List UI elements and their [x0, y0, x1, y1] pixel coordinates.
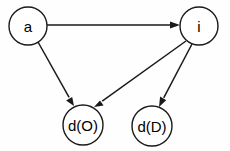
- node-group: a i d(O) d(D): [9, 7, 218, 146]
- graph-diagram: a i d(O) d(D): [0, 0, 230, 151]
- node-i-label: i: [197, 18, 200, 35]
- node-a-label: a: [24, 18, 33, 35]
- node-dO-label: d(O): [68, 117, 98, 134]
- edge-i-to-dO: [94, 41, 186, 107]
- edge-i-to-dD-line: [164, 44, 192, 98]
- edge-a-to-dO-line: [38, 42, 69, 97]
- edge-i-to-dD: [159, 44, 192, 107]
- edge-a-to-i: [47, 22, 180, 29]
- node-dD-label: d(D): [137, 118, 166, 135]
- edge-a-to-dO: [38, 42, 74, 106]
- edge-i-to-dO-arrowhead: [94, 100, 104, 107]
- edge-a-to-i-arrowhead: [170, 22, 180, 29]
- edge-i-to-dO-line: [102, 41, 186, 101]
- node-a[interactable]: a: [9, 7, 47, 45]
- node-dD[interactable]: d(D): [132, 106, 172, 146]
- edge-a-to-dO-arrowhead: [66, 97, 74, 106]
- node-i[interactable]: i: [180, 7, 218, 45]
- graph-canvas: a i d(O) d(D): [0, 0, 230, 151]
- edge-i-to-dD-arrowhead: [159, 97, 166, 107]
- node-dO[interactable]: d(O): [63, 105, 103, 145]
- edge-group: [38, 22, 192, 108]
